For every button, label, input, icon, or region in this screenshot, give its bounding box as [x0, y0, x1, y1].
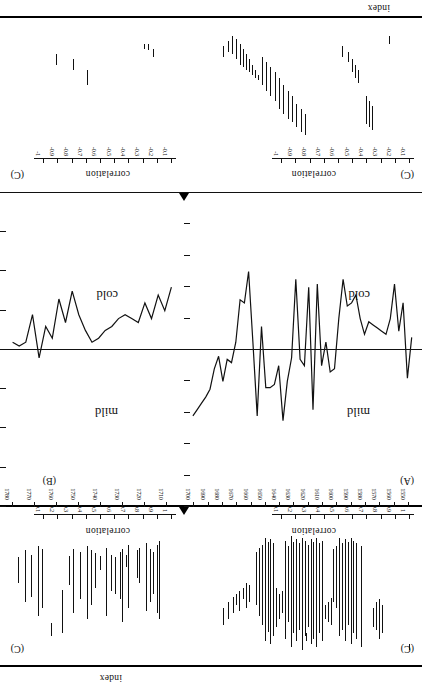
corr-pos-tick-label: 0.5 [92, 505, 99, 512]
corr-neg-tick-label: -0.8 [63, 147, 70, 156]
corr-pos-tick-label: 0.3 [301, 505, 308, 512]
corr-neg-tick-label: -0.8 [301, 147, 308, 156]
panel-b-index-series [0, 193, 184, 507]
index-axis-label-a: index [367, 3, 390, 13]
panel-a-index-tick [184, 412, 190, 413]
corr-neg-tick [100, 158, 101, 163]
corr-neg-tick [352, 158, 353, 163]
corr-neg-tick [57, 158, 58, 163]
panel-b-year-tick-label: 1730 [114, 488, 121, 500]
corr-pos-tick [100, 514, 101, 519]
figure-root: (A) mild cold 15501560157015801590160016… [0, 0, 422, 685]
panel-b-index-tick [0, 271, 6, 272]
correlation-axis-label-bottom2: correlation [86, 169, 130, 179]
correlation-axis-label-bottom: correlation [292, 169, 336, 179]
corr-neg-tick [114, 158, 115, 163]
corr-pos-tick-label: 0.1 [273, 505, 280, 512]
corr-pos-tick-label: 0.7 [358, 505, 365, 512]
corr-neg-tick-label: -0.2 [386, 147, 393, 156]
panel-b-line [13, 287, 172, 358]
corr-pos-tick [324, 514, 325, 519]
corr-neg-tick [338, 158, 339, 163]
corr-pos-tick [114, 514, 115, 519]
corr-neg-tick-label: -0.9 [49, 147, 56, 156]
corr-neg-tick [281, 158, 282, 163]
panel-a-index-tick [184, 443, 190, 444]
corr-pos-tick-label: 0.6 [344, 505, 351, 512]
correlation-axis-negative: -0.1-0.2-0.3-0.4-0.5-0.6-0.7-0.8-0.9-1-0… [0, 18, 422, 193]
correlation-axis-positive: 10.90.80.70.60.50.40.30.20.110.90.80.70.… [0, 507, 422, 667]
corr-pos-tick-label: 0.3 [63, 505, 70, 512]
panel-b-index-tick [0, 467, 6, 468]
corr-pos-tick [409, 514, 410, 519]
corr-pos-tick [128, 514, 129, 519]
corr-pos-tick-label: 0.4 [315, 505, 322, 512]
corr-neg-tick [381, 158, 382, 163]
corr-neg-tick-label: -1 [273, 151, 280, 156]
corr-pos-tick [72, 514, 73, 519]
corr-neg-tick-label: -0.4 [120, 147, 127, 156]
corr-pos-tick [352, 514, 353, 519]
correlation-axis-label-top2: correlation [86, 526, 130, 536]
marker-triangle-upper [179, 507, 189, 515]
corr-pos-tick [281, 514, 282, 519]
corr-pos-tick [395, 514, 396, 519]
panel-a-index-tick [184, 380, 190, 381]
corr-neg-tick [366, 158, 367, 163]
corr-neg-tick [86, 158, 87, 163]
panel-b-year-tick-label: 1750 [70, 488, 77, 500]
correlation-axis-label-top: correlation [292, 526, 336, 536]
corr-pos-tick [143, 514, 144, 519]
panel-b-year-tick-label: 1710 [158, 488, 165, 500]
corr-pos-tick-label: 0.9 [386, 505, 393, 512]
corr-pos-axis-rule [34, 514, 176, 515]
panel-a-index-tick [184, 475, 190, 476]
corr-neg-axis-rule [34, 158, 176, 159]
corr-neg-tick [324, 158, 325, 163]
corr-pos-tick-label: 0.5 [330, 505, 337, 512]
panel-a-index-tick [184, 318, 190, 319]
corr-pos-tick [171, 514, 172, 519]
corr-neg-tick-label: -0.4 [358, 147, 365, 156]
corr-pos-tick [43, 514, 44, 519]
corr-neg-tick-label: -0.9 [287, 147, 294, 156]
corr-pos-tick-label: 0.1 [35, 505, 42, 512]
corr-pos-tick-label: 0.8 [372, 505, 379, 512]
corr-pos-tick [310, 514, 311, 519]
panel-a-index-tick [184, 349, 190, 350]
corr-neg-tick [157, 158, 158, 163]
corr-neg-tick-label: -0.1 [401, 147, 408, 156]
corr-pos-tick [338, 514, 339, 519]
corr-neg-tick [128, 158, 129, 163]
panel-b: (B) mild cold 17101720173017401750176017… [0, 193, 184, 507]
corr-pos-tick [366, 514, 367, 519]
corr-neg-tick-label: -0.2 [148, 147, 155, 156]
corr-pos-tick-label: 0.6 [106, 505, 113, 512]
marker-triangle-lower [179, 193, 189, 201]
index-axis-label-b: index [99, 673, 122, 683]
corr-neg-tick [295, 158, 296, 163]
panel-b-index-tick [0, 388, 6, 389]
corr-pos-tick-label: 0.2 [49, 505, 56, 512]
corr-neg-tick-label: -0.5 [344, 147, 351, 156]
corr-neg-tick-label: -0.3 [372, 147, 379, 156]
corr-neg-tick [409, 158, 410, 163]
panel-b-year-tick-label: 1770 [26, 488, 33, 500]
panel-b-year-tick-label: 1740 [92, 488, 99, 500]
corr-neg-tick-label: -0.5 [106, 147, 113, 156]
figure-rotated-canvas: (A) mild cold 15501560157015801590160016… [0, 0, 422, 685]
corr-pos-tick-label: 0.2 [287, 505, 294, 512]
corr-neg-tick-label: -0.1 [163, 147, 170, 156]
panel-b-index-tick [0, 428, 6, 429]
corr-neg-tick [171, 158, 172, 163]
corr-pos-tick-label: 0.7 [120, 505, 127, 512]
corr-pos-tick [381, 514, 382, 519]
corr-pos-tick-label: 1 [163, 509, 170, 512]
panel-a-index-tick [184, 255, 190, 256]
panel-b-index-tick [0, 349, 6, 350]
corr-neg-tick [72, 158, 73, 163]
corr-neg-tick-label: -0.7 [315, 147, 322, 156]
panel-b-index-tick [0, 310, 6, 311]
panel-b-year-tick-label: 1760 [48, 488, 55, 500]
corr-pos-tick [157, 514, 158, 519]
